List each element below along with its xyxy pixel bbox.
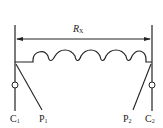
resistor-coil bbox=[15, 50, 152, 62]
label-c1: C1 bbox=[10, 113, 20, 124]
c2-terminal-circle bbox=[149, 82, 155, 88]
label-c2: C2 bbox=[145, 113, 155, 124]
p1-lead bbox=[16, 64, 42, 110]
arrowhead-right-icon bbox=[144, 37, 151, 41]
arrowhead-left-icon bbox=[16, 37, 23, 41]
resistor-label: RX bbox=[72, 23, 84, 34]
label-p2: P2 bbox=[123, 113, 132, 124]
c1-terminal-circle bbox=[12, 82, 18, 88]
four-terminal-resistor-diagram: RX C1 P1 P2 C2 bbox=[0, 0, 163, 128]
p2-lead bbox=[133, 64, 151, 110]
label-p1: P1 bbox=[39, 113, 48, 124]
